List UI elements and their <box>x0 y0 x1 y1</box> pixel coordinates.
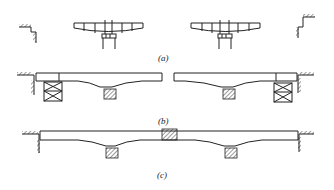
right-abutment-c <box>298 131 314 152</box>
continuous-girder-c <box>40 129 298 158</box>
right-girder-b <box>174 73 297 102</box>
panel-a: (a) <box>19 14 315 63</box>
left-abutment-c <box>22 131 40 153</box>
panel-c: (c) <box>22 129 314 180</box>
right-abutment-b <box>298 72 314 93</box>
left-cantilever-t-a <box>74 20 143 49</box>
right-cantilever-t-a <box>191 20 260 49</box>
closure-joint <box>162 129 177 140</box>
label-b: (b) <box>158 116 169 126</box>
left-girder-b <box>36 73 162 101</box>
panel-b: (b) <box>17 72 314 126</box>
left-abutment-b <box>17 72 34 95</box>
label-a: (a) <box>158 53 169 63</box>
left-abutment-a <box>19 24 36 43</box>
bridge-construction-diagram: (a) <box>0 0 334 190</box>
label-c: (c) <box>157 170 167 180</box>
right-abutment-a <box>296 14 315 38</box>
